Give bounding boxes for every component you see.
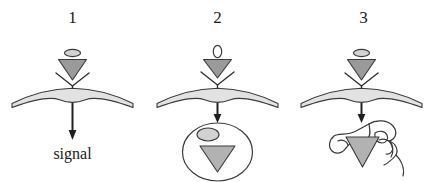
panel-2-graphic	[145, 0, 290, 182]
triangle-ligand-icon	[348, 60, 376, 81]
figure-canvas: 1 signal 2	[0, 0, 436, 182]
vesicle-inclusion-ellipse-icon	[197, 128, 219, 141]
triangle-ligand-icon	[346, 137, 379, 167]
panel-3: 3	[291, 0, 436, 182]
ellipse-ligand-cap-icon	[65, 49, 81, 56]
panel-1: 1 signal	[0, 0, 145, 182]
panel-1-caption: signal	[0, 144, 145, 164]
down-arrow-icon	[214, 103, 222, 123]
down-arrow-icon	[358, 103, 366, 123]
triangle-ligand-icon	[59, 60, 87, 81]
ellipse-ligand-cap-icon	[213, 45, 221, 57]
ellipse-ligand-cap-icon	[354, 49, 370, 56]
down-arrow-icon	[69, 103, 77, 140]
triangle-ligand-icon	[204, 60, 232, 79]
panel-3-graphic	[291, 0, 436, 182]
panel-2: 2	[145, 0, 290, 182]
